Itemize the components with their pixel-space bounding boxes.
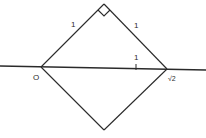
- sqrt2-construction-diagram: 1 1 1 O √2: [0, 0, 206, 138]
- lower-left-side: [41, 67, 104, 130]
- sqrt2-label: √2: [168, 75, 176, 82]
- upper-right-side-label: 1: [134, 21, 139, 30]
- upper-left-side-label: 1: [71, 20, 76, 29]
- lower-right-side: [104, 69, 167, 130]
- origin-label: O: [33, 73, 39, 82]
- upper-left-side: [41, 4, 104, 67]
- number-line: [0, 66, 206, 70]
- unit-tick-label: 1: [134, 53, 139, 62]
- right-angle-marker: [98, 10, 110, 16]
